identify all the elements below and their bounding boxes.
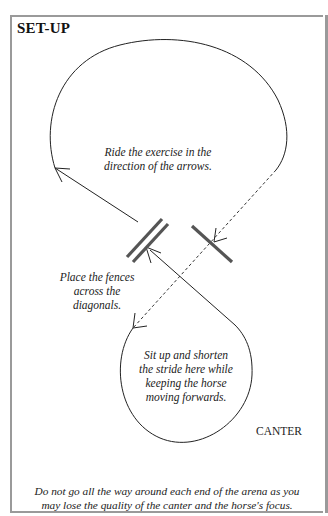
note-line: direction of the arrows. xyxy=(88,159,228,173)
arrowhead-icon xyxy=(214,228,227,242)
note-line: across the xyxy=(52,284,142,298)
footer-line: Do not go all the way around each end of… xyxy=(14,484,320,498)
gait-label: CANTER xyxy=(256,425,302,437)
arrowhead-icon xyxy=(146,247,161,263)
footer-line: may lose the quality of the canter and t… xyxy=(14,498,320,512)
note-stride: Sit up and shorten the stride here while… xyxy=(130,348,242,404)
note-line: Ride the exercise in the xyxy=(88,145,228,159)
note-line: Sit up and shorten xyxy=(130,348,242,362)
note-fences: Place the fences across the diagonals. xyxy=(52,270,142,312)
note-line: Place the fences xyxy=(52,270,142,284)
note-line: moving forwards. xyxy=(130,390,242,404)
note-line: diagonals. xyxy=(52,298,142,312)
arrowhead-icon xyxy=(55,168,70,182)
dashed-diagonal-track xyxy=(133,170,276,328)
note-line: the stride here while xyxy=(130,362,242,376)
footer-note: Do not go all the way around each end of… xyxy=(14,484,320,512)
note-direction: Ride the exercise in the direction of th… xyxy=(88,145,228,173)
note-line: keeping the horse xyxy=(130,376,242,390)
figure-eight-diagram xyxy=(0,0,328,516)
upper-loop-track xyxy=(50,40,287,222)
double-fence xyxy=(127,219,168,262)
